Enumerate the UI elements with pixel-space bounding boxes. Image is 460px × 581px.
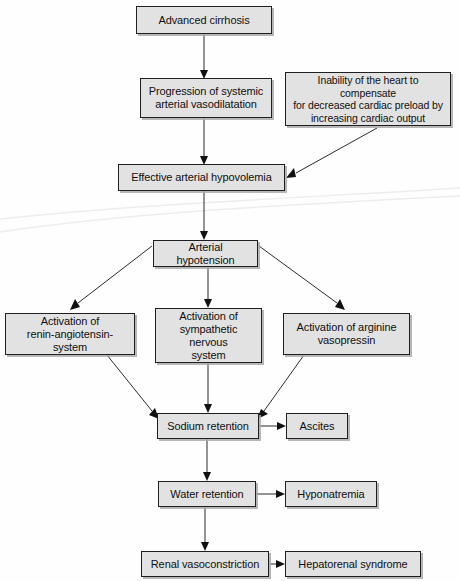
edge-renal-to-hepatorenal — [269, 560, 285, 568]
node-effective-arterial-hypovolemia[interactable]: Effective arterial hypovolemia — [118, 164, 285, 191]
node-advanced-cirrhosis[interactable]: Advanced cirrhosis — [136, 6, 272, 34]
edge-sodium-to-water — [203, 439, 211, 481]
node-inability-of-heart-to-compensate[interactable]: Inability of the heart to compensate for… — [285, 72, 451, 126]
node-hyponatremia[interactable]: Hyponatremia — [285, 481, 377, 507]
node-arterial-hypotension[interactable]: Arterial hypotension — [153, 240, 258, 267]
node-activation-of-renin-angiotensin-system[interactable]: Activation of renin-angiotensin-system — [5, 313, 135, 355]
node-renal-vasoconstriction[interactable]: Renal vasoconstriction — [141, 551, 269, 577]
edge-progression-to-hypovolemia — [200, 118, 208, 165]
node-activation-of-arginine-vasopressin[interactable]: Activation of arginine vasopressin — [283, 313, 410, 355]
edge-arginine-to-sodium — [257, 355, 304, 419]
edge-renin-to-sodium — [107, 355, 159, 419]
node-hepatorenal-syndrome[interactable]: Hepatorenal syndrome — [285, 551, 421, 577]
node-activation-of-sympathetic-nervous-system[interactable]: Activation of sympathetic nervous system — [155, 308, 262, 363]
edge-hypovolemia-to-hypotension — [200, 191, 208, 240]
edge-hypotension-to-arginine — [259, 246, 345, 310]
edge-sympathetic-to-sodium — [204, 363, 212, 413]
edge-water-to-hyponatremia — [256, 490, 285, 498]
node-ascites[interactable]: Ascites — [286, 413, 348, 439]
flowchart-diagram: Advanced cirrhosis Progression of system… — [0, 0, 460, 581]
edge-hypotension-to-renin — [70, 246, 152, 310]
edge-water-to-renal — [201, 507, 209, 551]
scan-streak-artifact — [0, 188, 460, 219]
node-progression-of-systemic-arterial-vasodilatation[interactable]: Progression of systemic arterial vasodil… — [140, 78, 272, 118]
edge-inability-to-hypovolemia — [286, 128, 377, 178]
node-water-retention[interactable]: Water retention — [158, 481, 256, 507]
edge-sodium-to-ascites — [259, 422, 286, 430]
edge-cirrhosis-to-progression — [200, 34, 208, 79]
node-sodium-retention[interactable]: Sodium retention — [157, 413, 259, 439]
edge-hypotension-to-sympathetic — [204, 267, 212, 308]
